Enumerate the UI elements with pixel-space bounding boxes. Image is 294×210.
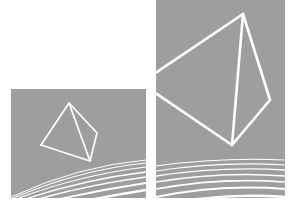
left-panel-background [11, 89, 146, 198]
left-panel-group [11, 89, 146, 210]
right-panel-group [154, 0, 285, 206]
render-canvas [0, 0, 294, 210]
wireframe-scene-svg [0, 0, 294, 210]
